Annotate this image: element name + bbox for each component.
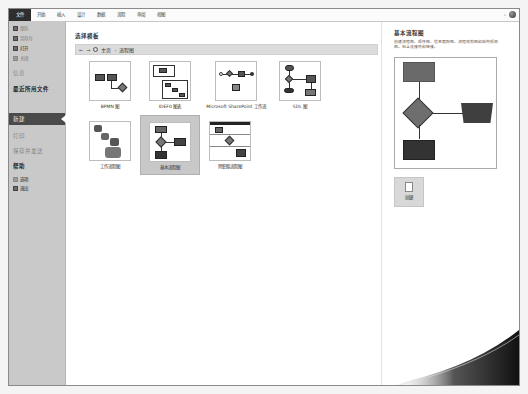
template-label: SDL 图 [270,104,330,110]
breadcrumb-separator: › [114,47,116,53]
sidebar-item-label: 保存 [20,25,28,31]
tab-view[interactable]: 视图 [151,9,171,21]
tab-file[interactable]: 文件 [9,9,31,21]
options-icon [13,177,18,182]
back-button[interactable]: ← [79,47,83,53]
template-cross-functional-flowchart[interactable]: 跨职能流程图 [200,121,260,170]
tab-review[interactable]: 审阅 [131,9,151,21]
flowchart-preview-image [394,57,497,169]
template-label: 基本流程图 [141,165,199,171]
tab-process[interactable]: 流程 [111,9,131,21]
breadcrumb: ← → 主页 › 流程图 [75,44,378,55]
close-doc-icon [13,56,18,61]
ribbon-controls: ▵ [504,11,516,18]
visio-backstage-window: 文件 开始 插入 设计 数据 流程 审阅 视图 ▵ 保存 另存为 打开 关闭 [8,8,520,386]
save-icon [13,26,18,31]
breadcrumb-current: 流程图 [119,46,134,53]
tab-design[interactable]: 设计 [71,9,91,21]
sidebar-item-label: 信息 [13,69,25,77]
sidebar-item-save-send[interactable]: 保存并发送 [13,147,43,155]
template-label: IDEF0 图表 [140,104,200,110]
sidebar-item-label: 退出 [20,185,28,191]
sdl-thumbnail-icon [279,61,321,101]
forward-button[interactable]: → [86,47,90,53]
create-label: 创建 [395,194,423,200]
new-document-icon [405,182,413,192]
sidebar-item-print[interactable]: 打印 [13,132,25,140]
template-work-flow[interactable]: 工作流程图 [80,121,140,170]
template-chooser: 选择模板 ← → 主页 › 流程图 BPMN 图 [66,22,382,385]
preview-title: 基本流程图 [394,29,424,37]
save-as-icon [13,36,18,41]
template-label: BPMN 图 [80,104,140,110]
backstage-sidebar: 保存 另存为 打开 关闭 信息 最近所用文件 新建 打印 保存并发送 [9,21,66,385]
tab-insert[interactable]: 插入 [51,9,71,21]
sidebar-item-options[interactable]: 选项 [13,176,28,182]
sidebar-item-help[interactable]: 帮助 [13,162,25,170]
page-title: 选择模板 [75,32,99,40]
template-bpmn[interactable]: BPMN 图 [80,61,140,110]
sidebar-item-label: 最近所用文件 [13,85,49,93]
sidebar-item-open[interactable]: 打开 [13,45,28,51]
template-basic-flowchart[interactable]: 基本流程图 [140,115,200,175]
sidebar-item-label: 打印 [13,132,25,140]
sidebar-item-label: 关闭 [20,55,28,61]
template-idef0[interactable]: IDEF0 图表 [140,61,200,110]
sharepoint-workflow-thumbnail-icon [215,61,257,101]
minimize-ribbon-icon[interactable]: ▵ [504,12,506,17]
basic-flowchart-thumbnail-icon [149,122,191,162]
sidebar-item-label: 选项 [20,176,28,182]
sidebar-item-label: 保存并发送 [13,147,43,155]
preview-description: 创建流程图、顺序图、信息跟踪图、流程规划图和结构预测图。包含连接符和链接。 [394,39,504,49]
sidebar-item-save-as[interactable]: 另存为 [13,35,32,41]
breadcrumb-home[interactable]: 主页 [101,46,111,53]
exit-icon [13,186,18,191]
template-label: Microsoft SharePoint 工作流 [200,104,272,110]
sidebar-item-label: 另存为 [20,35,32,41]
idef0-thumbnail-icon [149,61,191,101]
template-sdl[interactable]: SDL 图 [270,61,330,110]
template-label: 工作流程图 [80,164,140,170]
work-flow-thumbnail-icon [89,121,131,161]
sidebar-item-close[interactable]: 关闭 [13,55,28,61]
template-label: 跨职能流程图 [200,164,260,170]
tab-home[interactable]: 开始 [31,9,51,21]
sidebar-item-save[interactable]: 保存 [13,25,28,31]
open-icon [13,46,18,51]
sidebar-item-new[interactable]: 新建 [9,113,65,125]
sidebar-item-info[interactable]: 信息 [13,69,25,77]
template-sharepoint-workflow[interactable]: Microsoft SharePoint 工作流 [200,61,272,110]
create-button[interactable]: 创建 [394,177,424,207]
sidebar-item-label: 打开 [20,45,28,51]
tab-data[interactable]: 数据 [91,9,111,21]
template-preview-pane: 基本流程图 创建流程图、顺序图、信息跟踪图、流程规划图和结构预测图。包含连接符和… [382,22,519,385]
home-icon[interactable] [93,47,98,52]
bpmn-thumbnail-icon [89,61,131,101]
cross-functional-thumbnail-icon [209,121,251,161]
ribbon-tab-bar: 文件 开始 插入 设计 数据 流程 审阅 视图 ▵ [9,9,519,22]
sidebar-item-recent[interactable]: 最近所用文件 [13,85,49,93]
sidebar-item-label: 新建 [13,113,25,125]
sidebar-item-exit[interactable]: 退出 [13,185,28,191]
help-icon[interactable] [509,11,516,18]
sidebar-item-label: 帮助 [13,162,25,170]
